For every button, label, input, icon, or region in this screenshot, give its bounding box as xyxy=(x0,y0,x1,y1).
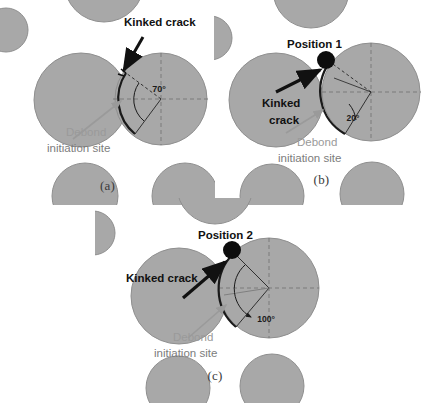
panel-caption-a: (a) xyxy=(0,178,215,194)
angle-label: 70° xyxy=(152,84,166,94)
panel-a: Kinked crack 70° Debond initiation site xyxy=(0,0,215,205)
position-label: Position 2 xyxy=(198,229,253,241)
kinked-crack-label-line1: Kinked xyxy=(262,97,300,109)
angle-label: 100° xyxy=(257,314,275,324)
kinked-crack-label: Kinked crack xyxy=(124,16,196,28)
neighbor-particle xyxy=(71,211,115,255)
position-marker-dot xyxy=(317,51,335,69)
position-marker-dot xyxy=(223,241,241,259)
panel-caption-b: (b) xyxy=(214,172,429,188)
debond-label-line2: initiation site xyxy=(47,142,110,154)
debond-label-line1: Debond xyxy=(297,136,337,148)
kinked-crack-label-line2: crack xyxy=(269,114,300,126)
neighbor-particle xyxy=(0,8,28,52)
angle-label: 20° xyxy=(347,113,360,123)
position-label: Position 1 xyxy=(287,38,343,50)
panel-caption-c: (c) xyxy=(95,368,335,384)
neighbor-particle xyxy=(273,0,349,28)
debond-label-line1: Debond xyxy=(173,331,213,343)
left-particle xyxy=(131,248,227,344)
debond-label-line2: initiation site xyxy=(154,347,217,359)
debond-label-line1: Debond xyxy=(66,126,106,138)
figure-root: Kinked crack 70° Debond initiation site … xyxy=(0,0,429,403)
debond-label-line2: initiation site xyxy=(278,152,341,164)
kinked-crack-label: Kinked crack xyxy=(126,272,198,284)
